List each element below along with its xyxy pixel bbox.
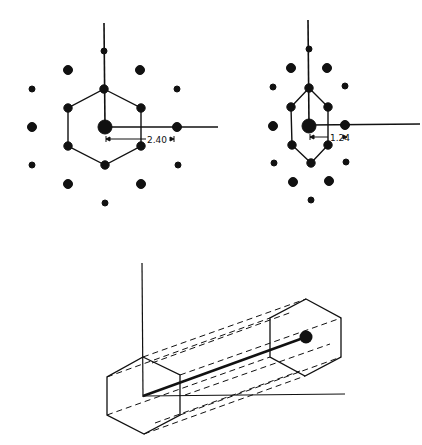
center-atom (302, 119, 316, 133)
vertical-axis-line (308, 20, 309, 126)
center-atom (98, 120, 112, 134)
vertical-axis (142, 263, 143, 397)
horizontal-axis-line (309, 124, 420, 125)
left-dimension-label: 2.40 (147, 135, 167, 145)
projected-atom (300, 331, 313, 344)
horizontal-axis (143, 394, 345, 396)
right-dimension-label: 1.24 (330, 133, 350, 143)
left-lattice (28, 23, 219, 206)
right-lattice (269, 20, 421, 203)
vector-line (143, 337, 306, 396)
diagram-canvas: 2.40 1.24 (0, 0, 422, 445)
vertical-axis-line (104, 23, 105, 127)
bottom-projection (107, 263, 345, 434)
